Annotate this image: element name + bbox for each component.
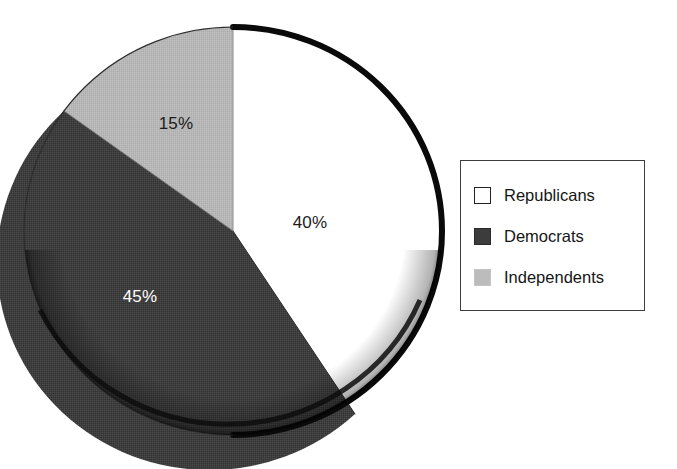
chart-legend: Republicans Democrats Independents [460, 160, 645, 311]
legend-label-democrats: Democrats [504, 228, 584, 245]
legend-swatch-democrats-icon [474, 228, 491, 245]
legend-swatch-republicans-icon [474, 187, 491, 204]
pie-chart-figure: 40% 45% 15% Republicans Democrats Indepe… [0, 0, 677, 469]
legend-item-democrats[interactable]: Democrats [461, 216, 644, 257]
legend-item-independents[interactable]: Independents [461, 257, 644, 298]
legend-swatch-independents-icon [474, 269, 491, 286]
legend-label-independents: Independents [504, 269, 604, 286]
legend-label-republicans: Republicans [504, 187, 595, 204]
legend-item-republicans[interactable]: Republicans [461, 175, 644, 216]
